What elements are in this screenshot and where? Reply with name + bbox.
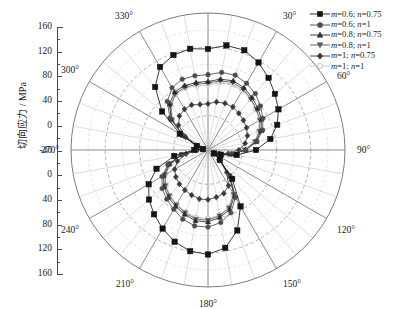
legend-item[interactable]: m=1; n=0.75 <box>309 51 413 61</box>
legend-label: m=1; n=1 <box>331 62 364 71</box>
angle-label-300: 300° <box>61 65 79 75</box>
legend-label: m=0.6; n=1 <box>331 20 371 29</box>
legend-label: m=0.6; n=0.75 <box>331 10 382 19</box>
legend-marker-diamond-icon <box>309 51 331 61</box>
angle-label-60: 60° <box>337 71 350 81</box>
angle-label-30: 30° <box>283 11 296 21</box>
legend-marker-triangle-down-icon <box>309 40 331 50</box>
angle-label-240: 240° <box>61 225 79 235</box>
legend-item[interactable]: m=1; n=1 <box>309 61 413 71</box>
polar-grid <box>71 13 345 287</box>
legend-item[interactable]: m=0.8; n=0.75 <box>309 30 413 40</box>
legend-marker-square-icon <box>309 9 331 19</box>
angle-label-180: 180° <box>199 299 217 309</box>
angle-label-150: 150° <box>283 279 301 289</box>
legend-marker-circle-open-icon <box>309 61 331 71</box>
angle-label-270: 270° <box>41 145 59 155</box>
angle-label-120: 120° <box>337 225 355 235</box>
legend-item[interactable]: m=0.6; n=1 <box>309 19 413 29</box>
legend-label: m=0.8; n=0.75 <box>331 30 382 39</box>
legend-marker-circle-icon <box>309 20 331 30</box>
legend-label: m=1; n=0.75 <box>331 51 375 60</box>
angle-label-210: 210° <box>116 279 134 289</box>
angle-label-330: 330° <box>115 11 133 21</box>
legend: m=0.6; n=0.75m=0.6; n=1m=0.8; n=0.75m=0.… <box>309 9 413 71</box>
legend-item[interactable]: m=0.8; n=1 <box>309 40 413 50</box>
legend-item[interactable]: m=0.6; n=0.75 <box>309 9 413 19</box>
angle-label-90: 90° <box>357 145 370 155</box>
legend-marker-triangle-up-icon <box>309 30 331 40</box>
legend-label: m=0.8; n=1 <box>331 41 371 50</box>
